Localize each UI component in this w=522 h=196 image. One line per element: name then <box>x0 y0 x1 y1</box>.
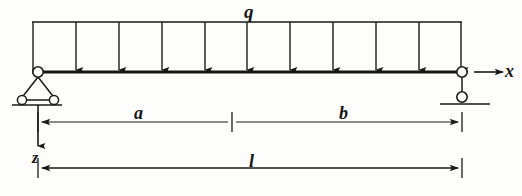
distributed-load-group <box>32 22 462 70</box>
roller-circle-icon <box>457 92 467 102</box>
dimension-label-l: l <box>249 152 254 170</box>
load-label-q: q <box>244 2 254 21</box>
axis-label-z: z <box>32 150 38 166</box>
pin-circle-icon <box>457 67 467 77</box>
beam-diagram-canvas <box>0 0 522 196</box>
dimension-a-b <box>38 112 462 132</box>
roller-circle-icon <box>49 95 58 104</box>
dimension-label-a: a <box>134 104 143 122</box>
pin-circle-icon <box>33 67 43 77</box>
dimension-label-b: b <box>339 104 348 122</box>
roller-circle-icon <box>17 95 26 104</box>
beam-diagram-figure: q x z a b l <box>0 0 522 196</box>
axis-label-x: x <box>505 62 514 80</box>
load-arrows <box>33 22 461 70</box>
